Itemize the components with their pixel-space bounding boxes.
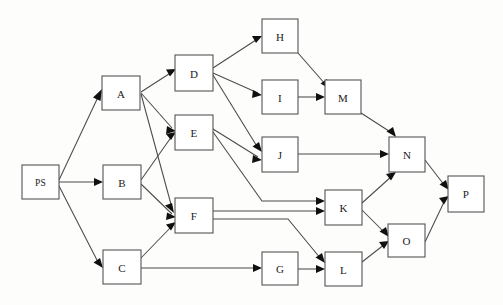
- edge-k-n: [362, 176, 392, 203]
- edge-d-j: [213, 75, 258, 148]
- node-c-label: C: [118, 262, 126, 274]
- node-i[interactable]: I: [262, 80, 298, 114]
- edge-l-o: [362, 244, 385, 262]
- node-e[interactable]: E: [175, 115, 213, 150]
- arrowhead-k-n: [386, 172, 396, 181]
- node-n-label: N: [403, 149, 411, 161]
- edge-e-j: [213, 129, 258, 157]
- edge-h-m: [298, 53, 326, 85]
- arrowhead-g-l: [316, 265, 325, 273]
- edge-o-p: [425, 200, 445, 242]
- edge-k-o: [362, 210, 385, 233]
- node-i-label: I: [278, 92, 282, 104]
- edge-a-d: [141, 72, 172, 92]
- node-ps-label: PS: [35, 178, 46, 188]
- node-a[interactable]: A: [102, 76, 140, 110]
- diagram-canvas: PS A B C D E F: [0, 0, 503, 305]
- edge-d-h: [213, 38, 259, 68]
- node-j-label: J: [278, 149, 283, 161]
- node-n[interactable]: N: [389, 137, 425, 172]
- node-h[interactable]: H: [262, 19, 298, 53]
- node-f[interactable]: F: [175, 198, 213, 233]
- node-h-label: H: [276, 31, 284, 43]
- node-m-label: M: [338, 92, 348, 104]
- node-a-label: A: [117, 88, 125, 100]
- network-diagram-svg: PS A B C D E F: [0, 0, 503, 305]
- arrowhead-ps-c: [94, 258, 104, 268]
- arrowhead-ps-a: [93, 89, 102, 101]
- node-b-label: B: [118, 177, 126, 189]
- edge-b-e: [141, 136, 172, 180]
- node-k-label: K: [339, 202, 347, 214]
- node-l-label: L: [340, 264, 347, 276]
- node-p-label: P: [463, 188, 469, 200]
- node-o[interactable]: O: [388, 224, 425, 257]
- node-j[interactable]: J: [262, 137, 298, 172]
- node-ps[interactable]: PS: [22, 165, 59, 199]
- edge-ps-c: [59, 186, 99, 264]
- node-p[interactable]: P: [448, 176, 484, 212]
- node-k[interactable]: K: [325, 190, 362, 225]
- edge-ps-a: [59, 95, 99, 180]
- node-c[interactable]: C: [103, 250, 141, 284]
- node-b[interactable]: B: [103, 165, 141, 199]
- node-d[interactable]: D: [175, 55, 213, 91]
- arrowhead-e-k: [316, 197, 325, 205]
- arrowhead-d-i: [252, 90, 262, 98]
- node-e-label: E: [191, 127, 198, 139]
- node-g-label: G: [276, 263, 284, 275]
- node-l[interactable]: L: [325, 252, 362, 286]
- edge-b-f: [141, 184, 172, 214]
- arrowhead-f-k-upper: [316, 207, 325, 215]
- node-f-label: F: [191, 210, 197, 222]
- arrowhead-i-m: [316, 93, 325, 101]
- node-d-label: D: [190, 68, 198, 80]
- edge-d-i: [213, 73, 258, 93]
- edge-m-n: [361, 113, 392, 133]
- node-m[interactable]: M: [325, 80, 361, 114]
- arrowhead-m-n: [387, 127, 397, 137]
- node-g[interactable]: G: [262, 252, 298, 285]
- arrowhead-c-g: [253, 264, 262, 272]
- arrowhead-ps-b: [94, 178, 103, 186]
- node-o-label: O: [402, 235, 410, 247]
- arrowhead-j-n: [380, 150, 389, 158]
- arrowhead-d-j: [253, 142, 263, 152]
- edge-n-p: [425, 160, 445, 186]
- edge-c-f: [141, 226, 172, 258]
- node-layer: PS A B C D E F: [22, 19, 484, 286]
